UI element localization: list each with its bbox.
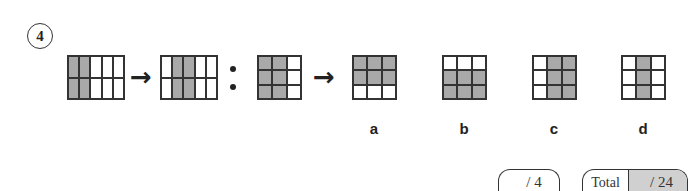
option-b-grid[interactable] (442, 55, 487, 100)
filled-cell (562, 56, 576, 70)
empty-cell (113, 56, 124, 78)
ratio-colon-icon (230, 60, 238, 94)
empty-cell (287, 56, 301, 70)
filled-cell (443, 85, 457, 99)
option-c-label[interactable]: c (544, 120, 564, 137)
empty-cell (206, 56, 217, 78)
filled-cell (258, 85, 272, 99)
empty-cell (102, 78, 113, 100)
filled-cell (258, 56, 272, 70)
filled-cell (562, 85, 576, 99)
empty-cell (651, 56, 665, 70)
total-score: / 24 (629, 170, 687, 191)
empty-cell (651, 70, 665, 84)
empty-cell (287, 70, 301, 84)
empty-cell (622, 85, 636, 99)
filled-cell (353, 70, 367, 84)
filled-cell (547, 70, 561, 84)
empty-cell (533, 56, 547, 70)
option-a-label[interactable]: a (364, 120, 384, 137)
filled-cell (636, 85, 650, 99)
total-label: Total (583, 170, 629, 191)
empty-cell (90, 78, 101, 100)
filled-cell (172, 56, 183, 78)
filled-cell (547, 85, 561, 99)
question-number: 4 (36, 28, 44, 45)
empty-cell (443, 56, 457, 70)
option-d-label[interactable]: d (633, 120, 653, 137)
option-c-grid[interactable] (532, 55, 577, 100)
filled-cell (183, 56, 194, 78)
filled-cell (272, 85, 286, 99)
filled-cell (636, 70, 650, 84)
filled-cell (68, 78, 79, 100)
filled-cell (562, 70, 576, 84)
option-a-grid[interactable] (352, 55, 397, 100)
filled-cell (79, 56, 90, 78)
sequence-grid-1 (67, 55, 125, 100)
option-d-grid[interactable] (621, 55, 666, 100)
filled-cell (382, 56, 396, 70)
empty-cell (472, 56, 486, 70)
empty-cell (195, 56, 206, 78)
option-b-label[interactable]: b (454, 120, 474, 137)
filled-cell (367, 70, 381, 84)
question-score-box: / 4 (498, 169, 560, 191)
filled-cell (353, 56, 367, 70)
arrow-right-icon: → (313, 64, 335, 90)
empty-cell (90, 56, 101, 78)
sequence-grid-2 (160, 55, 218, 100)
filled-cell (183, 78, 194, 100)
filled-cell (367, 56, 381, 70)
empty-cell (651, 85, 665, 99)
filled-cell (272, 70, 286, 84)
empty-cell (622, 56, 636, 70)
empty-cell (533, 70, 547, 84)
filled-cell (172, 78, 183, 100)
filled-cell (547, 56, 561, 70)
empty-cell (161, 78, 172, 100)
empty-cell (206, 78, 217, 100)
empty-cell (161, 56, 172, 78)
empty-cell (457, 56, 471, 70)
filled-cell (258, 70, 272, 84)
filled-cell (68, 56, 79, 78)
empty-cell (102, 56, 113, 78)
empty-cell (353, 85, 367, 99)
filled-cell (79, 78, 90, 100)
question-score: / 4 (526, 174, 541, 191)
empty-cell (367, 85, 381, 99)
filled-cell (382, 70, 396, 84)
filled-cell (457, 85, 471, 99)
empty-cell (382, 85, 396, 99)
filled-cell (472, 70, 486, 84)
total-score-box: Total / 24 (582, 169, 688, 191)
filled-cell (472, 85, 486, 99)
question-number-badge: 4 (27, 23, 53, 49)
empty-cell (622, 70, 636, 84)
filled-cell (272, 56, 286, 70)
arrow-right-icon: → (130, 64, 152, 90)
sequence-grid-3 (257, 55, 302, 100)
filled-cell (443, 70, 457, 84)
empty-cell (113, 78, 124, 100)
empty-cell (287, 85, 301, 99)
filled-cell (636, 56, 650, 70)
filled-cell (457, 70, 471, 84)
empty-cell (533, 85, 547, 99)
empty-cell (195, 78, 206, 100)
